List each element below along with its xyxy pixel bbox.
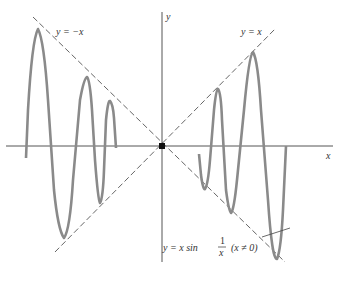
y-axis-label: y [165,11,171,22]
x-axis-label: x [325,150,331,161]
plot: y x y = −x y = x y = x sin 1 x (x ≠ 0) [0,0,349,282]
curve-right [199,52,286,259]
curve-frac-den: x [218,247,224,258]
annotation-pointer [262,228,290,237]
curve-condition: (x ≠ 0) [231,242,258,254]
label-curve: y = x sin [162,242,198,253]
curve-frac-num: 1 [220,235,225,246]
label-neg-line: y = −x [55,26,84,37]
line-y-x [55,28,276,252]
curve-prefix: y = x sin [162,242,198,253]
line-y-neg-x [33,17,285,262]
label-pos-line: y = x [240,26,262,37]
curve-left [26,29,116,238]
origin-marker [159,143,165,149]
